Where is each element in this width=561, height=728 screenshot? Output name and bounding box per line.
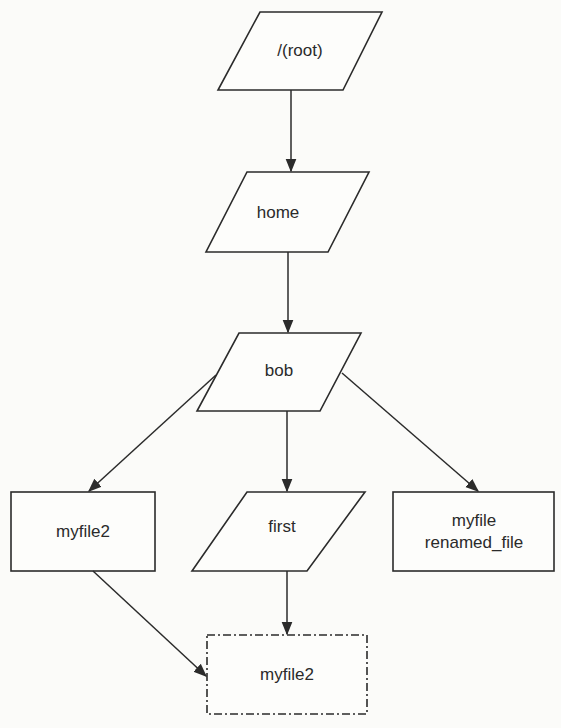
node-myfile-renamed-label: myfile renamed_file [425, 510, 523, 554]
node-myfile2-label: myfile2 [56, 521, 110, 543]
node-myfile-renamed-line1: myfile [425, 510, 523, 532]
edge-bob-myfile2 [89, 375, 216, 491]
node-bob-label: bob [265, 360, 293, 382]
node-home-label: home [257, 202, 300, 224]
edge-bob-myfile-renamed [342, 373, 478, 491]
node-root-label: /(root) [277, 40, 322, 62]
node-myfile2-link-label: myfile2 [260, 664, 314, 686]
node-first-label: first [268, 516, 295, 538]
edge-myfile2-link [93, 571, 206, 676]
node-myfile-renamed-line2: renamed_file [425, 532, 523, 554]
